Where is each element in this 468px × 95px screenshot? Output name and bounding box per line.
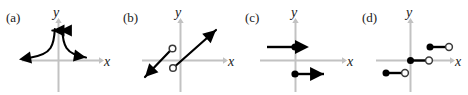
panel-c-y-axis-arrow xyxy=(292,18,298,23)
panel-a-curve-right xyxy=(62,29,86,58)
panel-c-plot xyxy=(240,0,358,95)
panel-b: (b) y x xyxy=(118,0,240,95)
panel-b-plot xyxy=(118,0,240,95)
panel-b-open-marker-upper xyxy=(169,45,176,52)
panel-a-x-axis-arrow xyxy=(99,57,104,63)
panel-c-x-axis-arrow xyxy=(342,57,347,63)
panel-a-plot xyxy=(0,0,118,95)
panel-d-closed-marker-upper xyxy=(427,44,434,51)
panel-d: (d) y x xyxy=(358,0,468,95)
panel-b-left-ray xyxy=(145,51,170,78)
panel-d-open-marker-upper xyxy=(446,44,453,51)
panel-a-y-axis-arrow xyxy=(55,18,61,23)
panel-b-x-axis-arrow xyxy=(223,57,228,63)
panel-d-open-marker-middle xyxy=(426,57,433,64)
panel-c: (c) y x xyxy=(240,0,358,95)
panel-d-open-marker-lower xyxy=(402,70,409,77)
panel-d-y-axis-arrow xyxy=(407,18,413,23)
panel-d-closed-marker-lower xyxy=(383,70,390,77)
panel-c-closed-marker-lower xyxy=(291,70,298,77)
panel-d-closed-marker-middle xyxy=(407,57,414,64)
figure-graph-panels: (a) y x (b) xyxy=(0,0,468,95)
panel-a: (a) y x xyxy=(0,0,118,95)
panel-a-curve-left xyxy=(31,29,55,58)
panel-d-x-axis-arrow xyxy=(450,57,455,63)
panel-b-y-axis-arrow xyxy=(177,18,183,23)
panel-b-open-marker-lower xyxy=(170,65,177,72)
panel-d-plot xyxy=(358,0,468,95)
panel-c-closed-marker-upper xyxy=(291,43,298,50)
